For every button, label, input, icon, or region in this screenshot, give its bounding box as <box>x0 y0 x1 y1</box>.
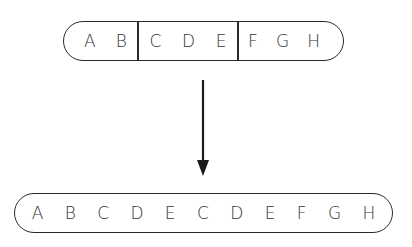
segment-ab: A B <box>64 22 137 60</box>
letter: E <box>265 203 276 223</box>
letter: E <box>216 31 227 51</box>
original-sequence: A B C D E F G H <box>63 21 344 61</box>
duplicated-sequence: A B C D E C D E F G H <box>14 193 393 233</box>
letter: C <box>97 203 109 223</box>
letter: B <box>116 31 127 51</box>
segment-cde: C D E <box>137 22 237 60</box>
letter: G <box>328 203 341 223</box>
letter: H <box>362 203 375 223</box>
letter: H <box>307 31 320 51</box>
letter: F <box>248 31 258 51</box>
letter: A <box>84 31 96 51</box>
letter: C <box>197 203 209 223</box>
letter: C <box>149 31 161 51</box>
letter: D <box>130 203 143 223</box>
letter: A <box>32 203 44 223</box>
letter: B <box>65 203 76 223</box>
letter: D <box>182 31 195 51</box>
letter: D <box>230 203 243 223</box>
segment-fgh: F G H <box>237 22 343 60</box>
letter: G <box>276 31 289 51</box>
letter: F <box>297 203 307 223</box>
down-arrow-icon <box>195 80 211 177</box>
letter: E <box>165 203 176 223</box>
